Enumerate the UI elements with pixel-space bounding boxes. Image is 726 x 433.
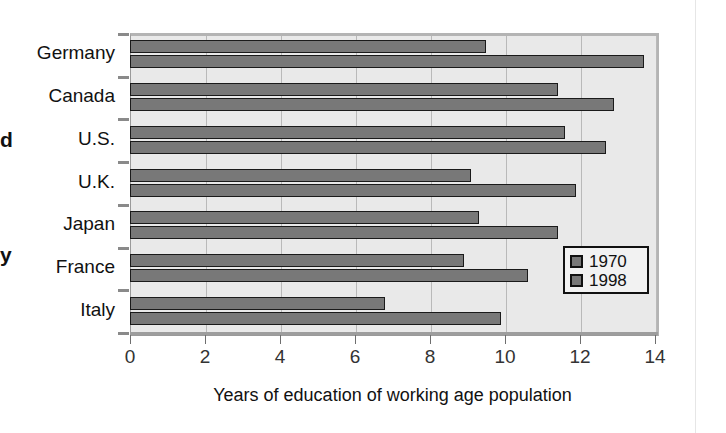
legend-item-1998: 1998 — [570, 271, 642, 290]
x-tick-label-0: 0 — [110, 346, 150, 368]
y-tick-6 — [118, 289, 129, 292]
x-tick-6 — [355, 335, 356, 344]
y-category-label-germany: Germany — [37, 42, 115, 64]
y-category-label-japan: Japan — [63, 213, 115, 235]
bar-france-1998 — [130, 269, 528, 282]
x-axis-line — [130, 332, 658, 335]
bar-canada-1970 — [130, 83, 558, 96]
bar-chart: 1970 1998 Years of education of working … — [0, 0, 726, 433]
x-tick-label-14: 14 — [635, 346, 675, 368]
y-tick-2 — [118, 118, 129, 121]
bar-u-k-1998 — [130, 184, 576, 197]
bar-u-k-1970 — [130, 169, 471, 182]
y-tick-4 — [118, 204, 129, 207]
legend-swatch-1970 — [570, 255, 583, 268]
legend-swatch-1998 — [570, 274, 583, 287]
x-tick-label-4: 4 — [260, 346, 300, 368]
legend-item-1970: 1970 — [570, 252, 642, 271]
chart-legend: 1970 1998 — [563, 246, 649, 294]
bar-japan-1970 — [130, 211, 479, 224]
x-tick-label-6: 6 — [335, 346, 375, 368]
x-tick-4 — [280, 335, 281, 344]
x-tick-2 — [205, 335, 206, 344]
gridline-x-14 — [656, 36, 657, 335]
y-tick-5 — [118, 247, 129, 250]
x-tick-label-12: 12 — [560, 346, 600, 368]
y-tick-1 — [118, 76, 129, 79]
x-tick-14 — [655, 335, 656, 344]
y-tick-3 — [118, 161, 129, 164]
x-tick-0 — [130, 335, 131, 344]
bar-germany-1970 — [130, 40, 486, 53]
y-category-label-canada: Canada — [48, 85, 115, 107]
x-tick-label-8: 8 — [410, 346, 450, 368]
bar-france-1970 — [130, 254, 464, 267]
y-tick-0 — [118, 33, 129, 36]
bar-italy-1970 — [130, 297, 385, 310]
bar-u-s-1970 — [130, 126, 565, 139]
y-category-label-u-s: U.S. — [78, 128, 115, 150]
x-tick-10 — [505, 335, 506, 344]
x-tick-label-2: 2 — [185, 346, 225, 368]
legend-label-1970: 1970 — [589, 253, 627, 270]
x-tick-8 — [430, 335, 431, 344]
x-tick-label-10: 10 — [485, 346, 525, 368]
y-tick-7 — [118, 332, 129, 335]
bar-canada-1998 — [130, 98, 614, 111]
bar-germany-1998 — [130, 55, 644, 68]
legend-label-1998: 1998 — [589, 272, 627, 289]
bar-u-s-1998 — [130, 141, 606, 154]
y-category-label-italy: Italy — [80, 299, 115, 321]
x-axis-title: Years of education of working age popula… — [130, 385, 655, 406]
x-tick-12 — [580, 335, 581, 344]
bar-japan-1998 — [130, 226, 558, 239]
y-category-label-u-k: U.K. — [78, 171, 115, 193]
y-category-label-france: France — [56, 256, 115, 278]
bar-italy-1998 — [130, 312, 501, 325]
